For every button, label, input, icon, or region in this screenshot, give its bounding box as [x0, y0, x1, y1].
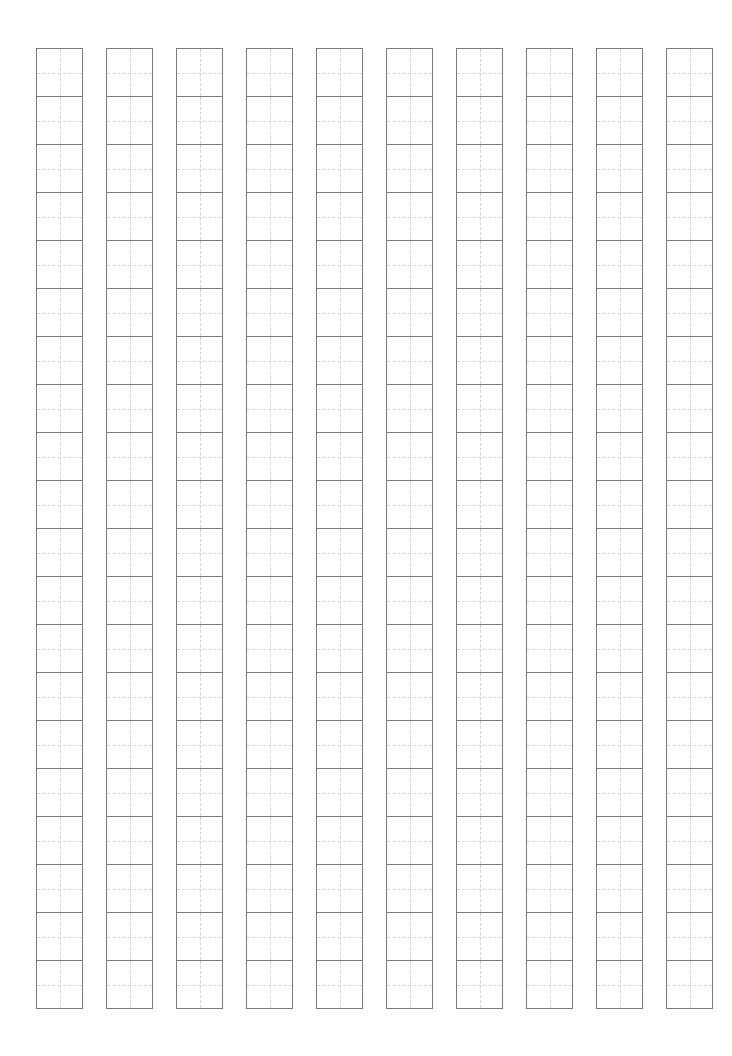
horizontal-guide-line [527, 649, 572, 650]
horizontal-guide-line [597, 169, 642, 170]
horizontal-guide-line [317, 601, 362, 602]
horizontal-guide-line [597, 121, 642, 122]
horizontal-guide-line [317, 841, 362, 842]
horizontal-guide-line [387, 553, 432, 554]
horizontal-guide-line [667, 793, 712, 794]
writing-cell [457, 913, 502, 961]
writing-cell [317, 529, 362, 577]
horizontal-guide-line [317, 937, 362, 938]
horizontal-guide-line [527, 697, 572, 698]
horizontal-guide-line [177, 265, 222, 266]
horizontal-guide-line [247, 553, 292, 554]
writing-cell [667, 865, 712, 913]
horizontal-guide-line [247, 601, 292, 602]
writing-cell [177, 865, 222, 913]
writing-cell [247, 385, 292, 433]
horizontal-guide-line [667, 217, 712, 218]
horizontal-guide-line [247, 265, 292, 266]
writing-cell [37, 97, 82, 145]
writing-cell [317, 913, 362, 961]
writing-cell [457, 337, 502, 385]
horizontal-guide-line [317, 169, 362, 170]
writing-cell [177, 721, 222, 769]
writing-cell [107, 769, 152, 817]
writing-cell [527, 913, 572, 961]
horizontal-guide-line [457, 361, 502, 362]
horizontal-guide-line [37, 745, 82, 746]
writing-cell [317, 385, 362, 433]
writing-cell [107, 721, 152, 769]
writing-cell [247, 673, 292, 721]
horizontal-guide-line [597, 73, 642, 74]
horizontal-guide-line [457, 937, 502, 938]
horizontal-guide-line [457, 121, 502, 122]
horizontal-guide-line [527, 217, 572, 218]
horizontal-guide-line [177, 841, 222, 842]
writing-cell [527, 769, 572, 817]
horizontal-guide-line [387, 505, 432, 506]
horizontal-guide-line [387, 889, 432, 890]
writing-cell [107, 817, 152, 865]
writing-cell [247, 49, 292, 97]
horizontal-guide-line [457, 841, 502, 842]
horizontal-guide-line [667, 649, 712, 650]
horizontal-guide-line [107, 169, 152, 170]
writing-cell [667, 289, 712, 337]
horizontal-guide-line [667, 409, 712, 410]
horizontal-guide-line [37, 313, 82, 314]
writing-cell [247, 289, 292, 337]
writing-cell [667, 961, 712, 1009]
horizontal-guide-line [177, 505, 222, 506]
horizontal-guide-line [107, 361, 152, 362]
horizontal-guide-line [37, 169, 82, 170]
horizontal-guide-line [597, 217, 642, 218]
horizontal-guide-line [107, 697, 152, 698]
show-through-text [0, 0, 732, 12]
horizontal-guide-line [527, 937, 572, 938]
horizontal-guide-line [107, 73, 152, 74]
writing-cell [37, 289, 82, 337]
horizontal-guide-line [37, 649, 82, 650]
writing-cell [527, 193, 572, 241]
horizontal-guide-line [37, 457, 82, 458]
horizontal-guide-line [387, 793, 432, 794]
writing-cell [177, 769, 222, 817]
writing-cell [457, 481, 502, 529]
writing-cell [37, 961, 82, 1009]
horizontal-guide-line [387, 649, 432, 650]
writing-cell [247, 865, 292, 913]
horizontal-guide-line [37, 121, 82, 122]
writing-cell [107, 577, 152, 625]
horizontal-guide-line [457, 409, 502, 410]
writing-cell [37, 769, 82, 817]
writing-cell [667, 913, 712, 961]
writing-cell [457, 97, 502, 145]
writing-cell [597, 529, 642, 577]
writing-cell [597, 193, 642, 241]
writing-cell [597, 721, 642, 769]
writing-cell [387, 865, 432, 913]
horizontal-guide-line [107, 457, 152, 458]
horizontal-guide-line [387, 73, 432, 74]
horizontal-guide-line [177, 73, 222, 74]
horizontal-guide-line [457, 889, 502, 890]
horizontal-guide-line [387, 313, 432, 314]
writing-cell [317, 289, 362, 337]
horizontal-guide-line [247, 121, 292, 122]
horizontal-guide-line [597, 697, 642, 698]
writing-cell [597, 673, 642, 721]
horizontal-guide-line [107, 553, 152, 554]
writing-cell [107, 961, 152, 1009]
writing-cell [527, 673, 572, 721]
horizontal-guide-line [457, 505, 502, 506]
writing-cell [457, 241, 502, 289]
horizontal-guide-line [247, 313, 292, 314]
writing-cell [597, 241, 642, 289]
horizontal-guide-line [597, 793, 642, 794]
writing-cell [387, 721, 432, 769]
horizontal-guide-line [177, 217, 222, 218]
writing-cell [107, 625, 152, 673]
writing-cell [597, 577, 642, 625]
writing-cell [37, 865, 82, 913]
writing-cell [667, 433, 712, 481]
